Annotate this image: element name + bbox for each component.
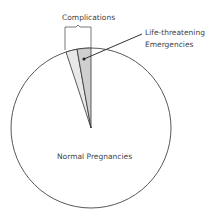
life-threatening-label-line2: Emergencies	[145, 40, 193, 49]
complications-label: Complications	[62, 13, 115, 22]
complications-bracket	[65, 25, 91, 50]
life-threatening-label-line1: Life-threatening	[145, 28, 205, 37]
normal-pregnancies-label: Normal Pregnancies	[57, 152, 132, 161]
leader-dot	[83, 58, 86, 61]
